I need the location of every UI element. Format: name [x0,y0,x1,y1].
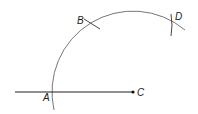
label-b: B [77,15,84,26]
label-a: A [42,92,50,103]
point-c-dot [131,90,134,93]
label-c: C [137,87,145,98]
label-d: D [175,11,182,22]
construction-mark-b [84,19,100,29]
construction-diagram: A B C D [0,0,198,114]
arc-centered-at-c [52,11,185,110]
construction-mark-d [171,14,172,36]
